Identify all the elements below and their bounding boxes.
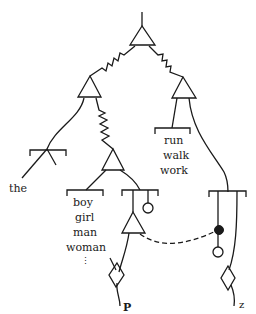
lower-and-node bbox=[122, 212, 145, 233]
determiner-bracket bbox=[22, 149, 66, 178]
verb-label-0: run bbox=[164, 134, 183, 147]
edge-to-feature-bracket bbox=[120, 170, 140, 190]
edge-to-verb-bracket bbox=[172, 98, 177, 128]
open-node-upper bbox=[143, 203, 153, 213]
edge-np-to-determiner bbox=[47, 98, 84, 149]
network-diagram: the boy girl man woman ⋮ P run walk work bbox=[0, 0, 256, 314]
verb-label-1: walk bbox=[163, 149, 189, 162]
noun-label-1: girl bbox=[75, 211, 95, 224]
verb-label-2: work bbox=[160, 164, 188, 177]
noun-label-2: man bbox=[73, 226, 97, 239]
zigzag-connector-right bbox=[149, 46, 183, 77]
filled-node bbox=[215, 226, 224, 235]
dashed-connector bbox=[140, 230, 218, 243]
edge-to-noun-bracket bbox=[86, 170, 106, 190]
noun-label-0: boy bbox=[73, 196, 94, 209]
edge-to-right-bracket bbox=[189, 98, 228, 192]
open-node-lower bbox=[213, 247, 223, 257]
root-and-node bbox=[130, 12, 155, 45]
terminal-z-label: z bbox=[239, 299, 244, 310]
edge-to-terminal-z bbox=[231, 285, 234, 306]
terminal-p-label: P bbox=[123, 301, 131, 314]
right-bracket bbox=[209, 191, 246, 270]
right-diamond bbox=[221, 266, 235, 290]
noun-and-node bbox=[102, 149, 124, 170]
noun-ellipsis: ⋮ bbox=[81, 256, 90, 266]
edge-to-terminal-p bbox=[117, 233, 129, 306]
noun-label-3: woman bbox=[66, 241, 106, 254]
np-and-node bbox=[78, 76, 101, 97]
vp-and-node bbox=[172, 77, 196, 98]
zigzag-connector-np bbox=[96, 98, 113, 149]
feature-bracket bbox=[122, 190, 158, 213]
zigzag-connector-left bbox=[90, 46, 135, 76]
determiner-label: the bbox=[9, 182, 27, 195]
